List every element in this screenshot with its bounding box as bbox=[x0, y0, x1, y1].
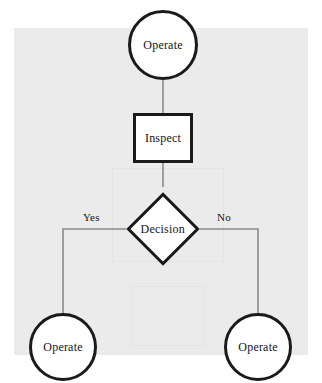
edge-decision-yes-to-operate-left bbox=[63, 229, 126, 313]
edge-label-no: No bbox=[217, 211, 231, 223]
flowchart-canvas: Operate Inspect Decision Operate Operate… bbox=[0, 0, 322, 383]
node-operate-right-label: Operate bbox=[238, 340, 277, 355]
node-inspect-label: Inspect bbox=[145, 131, 181, 146]
node-operate-top[interactable]: Operate bbox=[128, 10, 198, 80]
node-inspect[interactable]: Inspect bbox=[133, 113, 193, 163]
node-operate-left[interactable]: Operate bbox=[29, 313, 97, 381]
edge-decision-no-to-operate-right bbox=[200, 229, 258, 313]
node-operate-right[interactable]: Operate bbox=[224, 313, 292, 381]
node-operate-left-label: Operate bbox=[43, 340, 82, 355]
node-operate-top-label: Operate bbox=[143, 38, 182, 53]
edge-label-yes: Yes bbox=[83, 211, 100, 223]
node-decision-label: Decision bbox=[141, 221, 185, 236]
